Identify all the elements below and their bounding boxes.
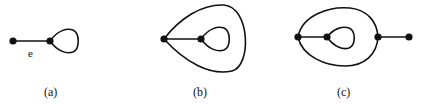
caption-a: (a) [44,85,57,99]
graph-b [164,5,245,72]
graph-a-node-1 [9,37,16,44]
caption-b: (b) [193,85,207,99]
graph-c-node-3 [374,33,381,40]
graph-a-node-2 [46,37,53,44]
graph-c-node-2 [323,33,330,40]
graph-a [13,29,78,52]
graph-c-node-4 [405,33,412,40]
graph-c-inner-loop [327,27,354,48]
graph-figure: e (a) (b) (c) [0,0,425,105]
graph-b-node-2 [197,35,204,42]
graph-c-outer-top [298,8,378,37]
caption-c: (c) [337,85,350,99]
edge-label-e: e [28,47,33,59]
graph-a-loop [50,29,78,52]
graph-b-node-1 [160,35,167,42]
graph-c-outer-bottom [298,37,378,66]
graph-b-inner-loop [201,27,229,50]
graph-c [298,8,409,66]
graph-c-node-1 [294,33,301,40]
